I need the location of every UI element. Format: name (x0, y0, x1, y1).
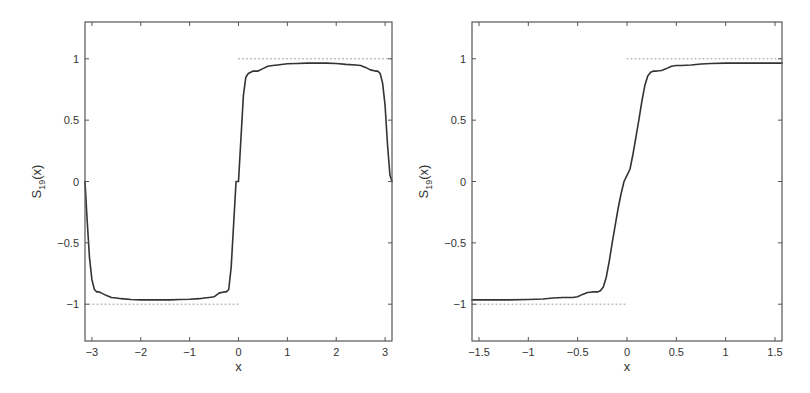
ticks-layer: −1.5−1−0.500.511.510.50−0.5−1 (444, 22, 782, 358)
curve-s-19-x- (472, 63, 782, 300)
x-tick-label: 1 (284, 346, 290, 358)
y-axis-label: S19(x) (416, 165, 434, 199)
x-tick-label: −1 (183, 346, 196, 358)
y-tick-label: 0.5 (64, 114, 79, 126)
y-axis-label-main: S (29, 189, 44, 198)
y-axis-label: S19(x) (29, 165, 47, 199)
y-tick-label: 0 (73, 176, 79, 188)
chart-zoomed-half-period: −1.5−1−0.500.511.510.50−0.5−1 x S19(x) (416, 22, 783, 374)
x-tick-label: 2 (333, 346, 339, 358)
y-axis-label-subscript: 19 (37, 180, 47, 190)
ticks-layer: −3−2−1012310.50−0.5−1 (57, 22, 392, 358)
x-tick-label: 3 (382, 346, 388, 358)
y-axis-label-subscript: 19 (424, 180, 434, 190)
y-axis-label-tail: (x) (416, 165, 431, 180)
y-axis-label-main: S (416, 189, 431, 198)
series-layer (85, 59, 392, 304)
chart-full-period: −3−2−1012310.50−0.5−1 x S19(x) (29, 22, 392, 374)
y-axis-label-tail: (x) (29, 165, 44, 180)
y-tick-label: −1 (453, 298, 466, 310)
y-tick-label: −1 (66, 298, 79, 310)
x-tick-label: −2 (135, 346, 148, 358)
y-tick-label: 1 (73, 53, 79, 65)
figure-canvas: −3−2−1012310.50−0.5−1 x S19(x) −1.5−1−0.… (0, 0, 810, 393)
x-tick-label: −1 (522, 346, 535, 358)
x-tick-label: −1.5 (468, 346, 490, 358)
figure: −3−2−1012310.50−0.5−1 x S19(x) −1.5−1−0.… (0, 0, 810, 393)
y-tick-label: 1 (460, 53, 466, 65)
series-layer (472, 59, 782, 304)
y-tick-label: 0.5 (451, 114, 466, 126)
axes-box (472, 22, 782, 341)
x-axis-label: x (624, 359, 631, 374)
y-tick-label: 0 (460, 176, 466, 188)
y-tick-label: −0.5 (57, 237, 79, 249)
x-tick-label: 0.5 (669, 346, 684, 358)
x-tick-label: −3 (86, 346, 99, 358)
x-tick-label: 0 (624, 346, 630, 358)
x-tick-label: 1.5 (767, 346, 782, 358)
x-tick-label: −0.5 (567, 346, 589, 358)
x-tick-label: 1 (723, 346, 729, 358)
x-axis-label: x (235, 359, 242, 374)
y-tick-label: −0.5 (444, 237, 466, 249)
x-tick-label: 0 (235, 346, 241, 358)
curve-s-19-x- (85, 63, 392, 300)
